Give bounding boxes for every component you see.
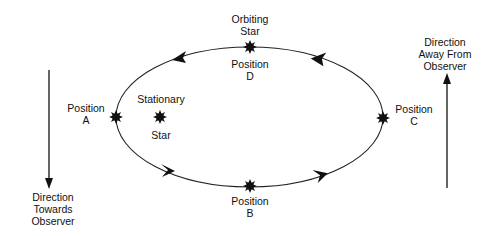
label-line: Direction	[31, 191, 74, 203]
label-orbiting-star: Orbiting Star	[232, 13, 269, 37]
label-star: Star	[151, 129, 170, 141]
stationary-star-icon	[153, 110, 167, 124]
label-line: Away From	[419, 48, 472, 60]
star-position-a-icon	[109, 110, 123, 124]
label-line: Position	[231, 195, 268, 207]
arrow-down-icon	[45, 178, 53, 189]
label-line: C	[395, 115, 432, 127]
label-position-c: Position C	[395, 103, 432, 127]
star-position-d-icon	[243, 40, 257, 54]
label-line: Position	[231, 58, 268, 70]
label-line: Towards	[31, 203, 74, 215]
label-line: Orbiting	[232, 13, 269, 25]
label-position-d: Position D	[231, 58, 268, 82]
orbit-arrow-icon	[172, 51, 186, 63]
label-position-b: Position B	[231, 195, 268, 219]
label-direction-towards-observer: Direction Towards Observer	[31, 191, 74, 227]
label-line: Direction	[419, 36, 472, 48]
label-stationary: Stationary	[137, 93, 184, 105]
label-line: Position	[395, 103, 432, 115]
label-line: Observer	[419, 60, 472, 72]
orbit-arrow-icon	[313, 167, 330, 184]
orbit-arrow-icon	[310, 50, 327, 67]
star-position-c-icon	[376, 111, 390, 125]
star-position-b-icon	[243, 179, 257, 193]
label-direction-away-from-observer: Direction Away From Observer	[419, 36, 472, 72]
label-position-a: Position A	[67, 102, 104, 126]
label-line: Star	[232, 25, 269, 37]
label-line: A	[67, 114, 104, 126]
arrow-up-icon	[443, 73, 451, 84]
label-line: Position	[67, 102, 104, 114]
label-line: Observer	[31, 215, 74, 227]
label-line: D	[231, 70, 268, 82]
label-line: B	[231, 207, 268, 219]
